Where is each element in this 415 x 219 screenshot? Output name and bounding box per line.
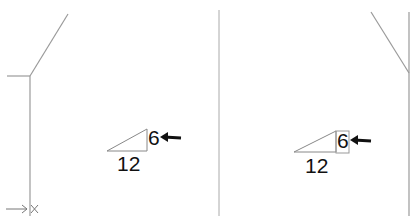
left-rafter-line — [30, 14, 68, 76]
right-rafter-line — [371, 12, 409, 73]
left-roof-outline — [7, 14, 68, 216]
left-run-label: 12 — [117, 153, 140, 174]
left-rise-arrow-icon — [160, 132, 181, 142]
origin-x-icon — [31, 205, 38, 213]
roof-pitch-diagram — [0, 0, 415, 219]
left-pitch-triangle — [107, 129, 147, 151]
right-run-label: 12 — [305, 155, 328, 176]
right-rise-arrow-icon — [350, 135, 371, 145]
left-rise-label: 6 — [148, 127, 160, 148]
right-pitch-triangle — [294, 131, 336, 152]
origin-arrow-icon — [6, 205, 27, 213]
right-rise-label: 6 — [337, 130, 349, 151]
right-roof-outline — [371, 12, 409, 216]
